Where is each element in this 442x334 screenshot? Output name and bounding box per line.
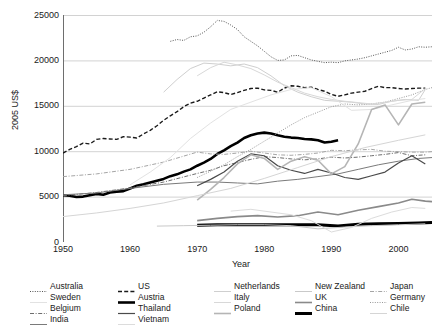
x-tick-label: 1970	[177, 245, 217, 254]
legend-swatch-icon	[370, 282, 387, 291]
series-line-uk	[197, 199, 432, 220]
legend-label: Germany	[390, 293, 425, 302]
x-tick-label: 1980	[244, 245, 284, 254]
legend-item-vietnam[interactable]: Vietnam	[118, 314, 171, 325]
series-line-australia	[170, 20, 432, 62]
series-line-italy	[197, 62, 425, 104]
y-tick-label: 5000	[39, 192, 59, 201]
legend-label: Japan	[390, 282, 413, 291]
legend-swatch-icon	[118, 293, 135, 302]
gridlines	[63, 16, 432, 243]
series-line-japan	[63, 149, 432, 176]
legend-item-china[interactable]: China	[295, 303, 365, 314]
legend-swatch-icon	[214, 304, 231, 313]
legend-swatch-icon	[295, 304, 312, 313]
legend-label: Thailand	[138, 304, 171, 313]
legend-item-poland[interactable]: Poland	[214, 303, 280, 314]
series-line-us	[63, 86, 425, 153]
legend-swatch-icon	[370, 304, 387, 313]
x-tick-label: 1990	[311, 245, 351, 254]
legend-swatch-icon	[214, 282, 231, 291]
axis-lines	[63, 15, 432, 242]
legend-item-thailand[interactable]: Thailand	[118, 303, 171, 314]
legend-item-australia[interactable]: Australia	[30, 281, 83, 292]
legend-label: Poland	[234, 304, 260, 313]
legend-swatch-icon	[295, 293, 312, 302]
legend-column: New ZealandUKChina	[295, 281, 365, 314]
y-tick-label: 10000	[34, 147, 59, 156]
x-tick-label: 1960	[110, 245, 150, 254]
legend-item-japan[interactable]: Japan	[370, 281, 425, 292]
legend-column: NetherlandsItalyPoland	[214, 281, 280, 314]
series-line-austria	[63, 133, 338, 197]
plot-area	[63, 15, 432, 242]
legend-item-sweden[interactable]: Sweden	[30, 292, 83, 303]
legend-item-new-zealand[interactable]: New Zealand	[295, 281, 365, 292]
legend-swatch-icon	[30, 293, 47, 302]
legend-item-uk[interactable]: UK	[295, 292, 365, 303]
x-tick-label: 1950	[43, 245, 83, 254]
legend-swatch-icon	[30, 304, 47, 313]
chart-canvas	[63, 15, 432, 242]
legend-label: Sweden	[50, 293, 81, 302]
legend-swatch-icon	[30, 315, 47, 324]
legend-item-germany[interactable]: Germany	[370, 292, 425, 303]
legend-swatch-icon	[118, 282, 135, 291]
legend-label: Australia	[50, 282, 83, 291]
legend-label: Italy	[234, 293, 250, 302]
legend-swatch-icon	[370, 293, 387, 302]
legend-item-belgium[interactable]: Belgium	[30, 303, 83, 314]
legend-item-chile[interactable]: Chile	[370, 303, 425, 314]
legend-item-india[interactable]: India	[30, 314, 83, 325]
legend-swatch-icon	[118, 304, 135, 313]
legend-swatch-icon	[118, 315, 135, 324]
legend-swatch-icon	[30, 282, 47, 291]
legend-label: Belgium	[50, 304, 81, 313]
legend-label: Austria	[138, 293, 164, 302]
x-tick-label: 2000	[378, 245, 418, 254]
y-axis-title: 2005 US$	[10, 75, 20, 145]
legend-label: UK	[315, 293, 327, 302]
legend-swatch-icon	[214, 293, 231, 302]
legend-label: US	[138, 282, 150, 291]
legend-swatch-icon	[295, 282, 312, 291]
axis-ticks	[63, 16, 432, 243]
legend-item-netherlands[interactable]: Netherlands	[214, 281, 280, 292]
y-tick-label: 25000	[34, 11, 59, 20]
series-group	[63, 20, 432, 232]
legend-label: Netherlands	[234, 282, 280, 291]
legend-label: India	[50, 315, 68, 324]
chart-figure: 0500010000150002000025000 2005 US$ 19501…	[0, 0, 442, 334]
chart-legend: AustraliaSwedenBelgiumIndiaUSAustriaThai…	[30, 281, 442, 331]
y-tick-label: 20000	[34, 56, 59, 65]
legend-label: New Zealand	[315, 282, 365, 291]
legend-item-italy[interactable]: Italy	[214, 292, 280, 303]
legend-label: Vietnam	[138, 315, 169, 324]
legend-column: USAustriaThailandVietnam	[118, 281, 171, 325]
legend-item-us[interactable]: US	[118, 281, 171, 292]
legend-column: JapanGermanyChile	[370, 281, 425, 314]
legend-label: Chile	[390, 304, 409, 313]
x-axis-tick-labels: 195019601970198019902000	[0, 245, 442, 259]
y-tick-label: 15000	[34, 101, 59, 110]
legend-item-austria[interactable]: Austria	[118, 292, 171, 303]
legend-column: AustraliaSwedenBelgiumIndia	[30, 281, 83, 325]
x-axis-title: Year	[0, 259, 442, 269]
legend-label: China	[315, 304, 337, 313]
